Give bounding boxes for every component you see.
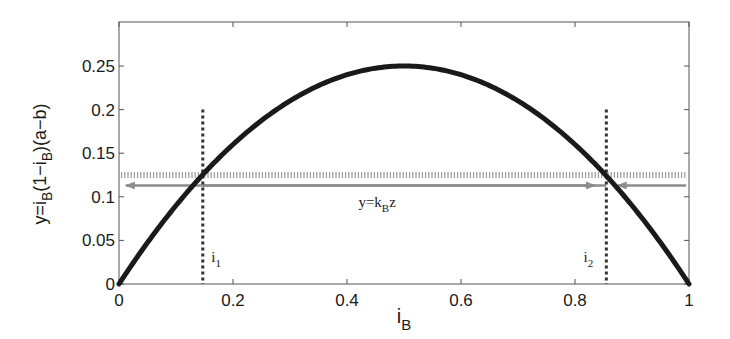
annotation-label: i1 xyxy=(211,249,221,269)
parabola-curve xyxy=(119,66,689,284)
reference-lines xyxy=(121,175,687,185)
tick-labels: 00.20.40.60.8100.050.10.150.20.25 xyxy=(82,57,694,310)
y-axis-label: y=iB(1−iB)(a−b) xyxy=(30,103,55,224)
y-tick-label: 0.15 xyxy=(82,144,115,163)
chart: 00.20.40.60.8100.050.10.150.20.25 y=kBzi… xyxy=(0,0,730,339)
axes-frame xyxy=(119,22,689,284)
x-tick-label: 1 xyxy=(684,291,693,310)
annotation-label: i2 xyxy=(584,249,594,269)
y-tick-label: 0.25 xyxy=(82,57,115,76)
annotation-label: y=kBz xyxy=(358,194,396,214)
x-tick-label: 0.2 xyxy=(221,291,245,310)
y-tick-label: 0.2 xyxy=(91,101,115,120)
x-tick-label: 0.8 xyxy=(563,291,587,310)
y-tick-label: 0.1 xyxy=(91,188,115,207)
x-axis-label: iB xyxy=(397,305,411,333)
x-tick-label: 0 xyxy=(114,291,123,310)
x-tick-label: 0.4 xyxy=(335,291,359,310)
threshold-lines xyxy=(203,110,607,284)
plot-area: 00.20.40.60.8100.050.10.150.20.25 y=kBzi… xyxy=(0,0,730,339)
axis-ticks xyxy=(119,22,689,284)
x-tick-label: 0.6 xyxy=(449,291,473,310)
y-tick-label: 0.05 xyxy=(82,231,115,250)
curve xyxy=(119,66,689,284)
plot-border xyxy=(119,22,689,284)
y-tick-label: 0 xyxy=(106,275,115,294)
annotations: y=kBzi1i2 xyxy=(211,194,593,269)
